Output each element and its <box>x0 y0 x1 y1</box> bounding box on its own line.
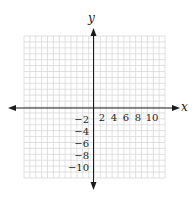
y-tick-label: −4 <box>74 126 89 137</box>
x-tick-label: 10 <box>146 112 159 123</box>
y-axis-label: y <box>87 11 95 25</box>
coordinate-plane: y x 2 4 6 8 10 −2 −4 −6 −8 −10 <box>0 0 195 197</box>
y-tick-label: −6 <box>74 138 89 149</box>
y-tick-label: −2 <box>74 114 89 125</box>
x-axis-right-arrow-icon <box>172 105 180 111</box>
x-tick-label: 2 <box>99 112 105 123</box>
y-axis-down-arrow-icon <box>91 182 97 190</box>
x-tick-label: 4 <box>111 112 117 123</box>
x-tick-label: 6 <box>123 112 129 123</box>
x-tick-label: 8 <box>135 112 141 123</box>
x-axis-left-arrow-icon <box>8 105 16 111</box>
x-axis-label: x <box>181 100 188 114</box>
y-axis-up-arrow-icon <box>91 28 97 36</box>
grid <box>24 36 165 178</box>
y-tick-label: −10 <box>68 162 89 173</box>
y-tick-label: −8 <box>74 150 89 161</box>
